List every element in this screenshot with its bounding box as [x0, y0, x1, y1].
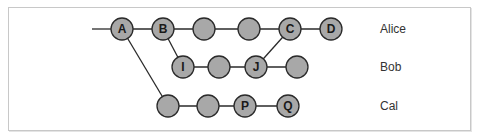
commit-node-Q: Q [277, 95, 299, 117]
node-label: C [286, 22, 295, 36]
commit-node-D: D [320, 18, 342, 40]
node-label: B [159, 22, 168, 36]
edge-A-c1 [122, 29, 168, 106]
commit-graph: ABCDIJPQ AliceBobCal [0, 0, 478, 138]
lane-label-alice: Alice [380, 22, 406, 36]
node-circle [238, 18, 260, 40]
commit-node-I: I [172, 56, 194, 78]
node-circle [193, 18, 215, 40]
commit-node-c1 [157, 95, 179, 117]
commit-node-C: C [279, 18, 301, 40]
node-label: Q [283, 99, 292, 113]
node-circle [208, 56, 230, 78]
node-circle [286, 56, 308, 78]
commit-node-J: J [245, 56, 267, 78]
commit-node-B: B [152, 18, 174, 40]
node-label: A [118, 22, 127, 36]
lane-label-bob: Bob [380, 60, 402, 74]
commit-node-b2 [208, 56, 230, 78]
node-label: J [253, 60, 260, 74]
commit-node-b4 [286, 56, 308, 78]
node-circle [157, 95, 179, 117]
commit-node-c2 [197, 95, 219, 117]
lane-labels-layer: AliceBobCal [380, 22, 406, 113]
lane-label-cal: Cal [380, 99, 398, 113]
commit-node-a4 [238, 18, 260, 40]
commit-node-a3 [193, 18, 215, 40]
commit-node-P: P [234, 95, 256, 117]
node-label: I [181, 60, 184, 74]
node-label: D [327, 22, 336, 36]
node-label: P [241, 99, 249, 113]
node-circle [197, 95, 219, 117]
commit-node-A: A [111, 18, 133, 40]
